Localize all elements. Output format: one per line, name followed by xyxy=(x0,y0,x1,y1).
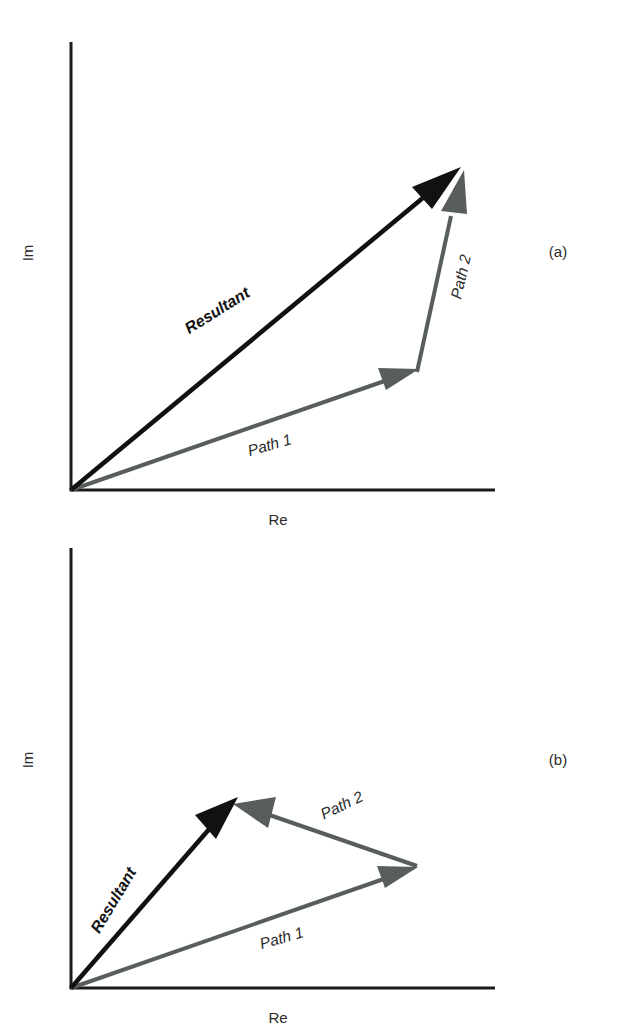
panel-b-x-axis-label: Re xyxy=(268,1009,287,1026)
panel-b-label: (b) xyxy=(549,751,567,768)
phasor-addition-figure: Resultant Path 1 Path 2 Im Re (a) Result… xyxy=(0,0,619,1030)
panel-a-y-axis-label: Im xyxy=(19,245,36,262)
panel-a-x-axis-label: Re xyxy=(268,511,287,528)
panel-a-label: (a) xyxy=(549,243,567,260)
figure-background xyxy=(0,0,619,1030)
panel-b-y-axis-label: Im xyxy=(19,752,36,769)
